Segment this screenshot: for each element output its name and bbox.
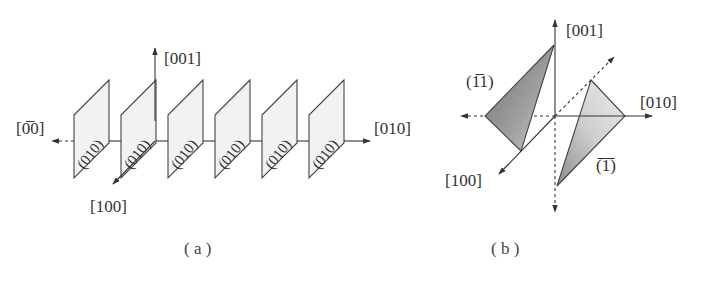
caption-a: ( a )	[184, 239, 211, 258]
label-0bar10-a: [0̅0]	[16, 119, 44, 138]
caption-b: ( b )	[491, 239, 519, 258]
panel-a: (010)(010)(010)(010)(010)(010) [001] [01…	[16, 48, 411, 258]
plane-1-bar1-1	[485, 45, 554, 151]
label-001-a: [001]	[164, 49, 201, 68]
label-010-b: [010]	[640, 93, 677, 112]
panel-b: [001] [010] [100] (1̅1) (̅1̅) ( b )	[445, 20, 677, 258]
label-plane-1-bar1-1: (1̅1)	[466, 72, 494, 91]
label-plane-bar1-1-bar1: (̅1̅)	[596, 156, 616, 175]
diagram-canvas: (010)(010)(010)(010)(010)(010) [001] [01…	[0, 0, 702, 281]
label-100-a: [100]	[90, 197, 127, 216]
label-010-a: [010]	[374, 119, 411, 138]
planes-a: (010)(010)(010)(010)(010)(010)	[74, 80, 344, 178]
label-100-b: [100]	[445, 171, 482, 190]
label-001-b: [001]	[566, 21, 603, 40]
